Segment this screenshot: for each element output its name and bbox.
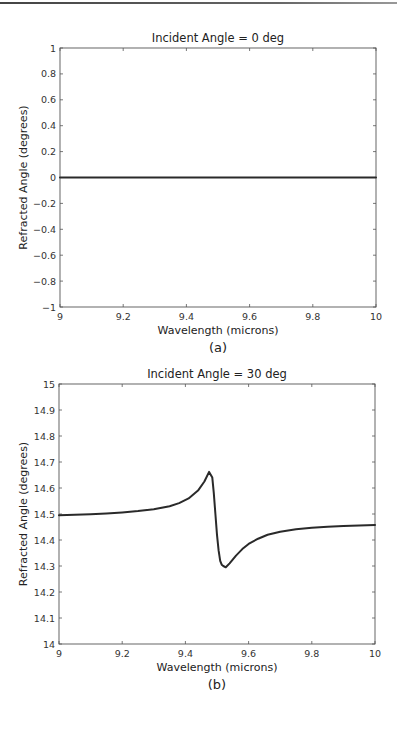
y-tick-label: 14.9 <box>34 405 55 416</box>
y-axis-label: Refracted Angle (degrees) <box>17 442 30 586</box>
x-tick-label: 10 <box>369 648 381 659</box>
figure-canvas: Incident Angle = 0 deg99.29.49.69.810−1−… <box>0 0 397 735</box>
x-tick-label: 9.6 <box>242 311 257 322</box>
y-tick-label: 14.7 <box>34 457 55 468</box>
chart-panel-b: Incident Angle = 30 deg99.29.49.69.81014… <box>17 367 381 692</box>
x-tick-label: 9.4 <box>179 311 194 322</box>
x-tick-label: 9.6 <box>241 648 256 659</box>
chart-title: Incident Angle = 30 deg <box>147 367 287 381</box>
y-tick-label: −0.8 <box>33 276 56 287</box>
y-tick-label: 0.8 <box>41 68 56 79</box>
y-tick-label: −0.2 <box>33 198 56 209</box>
y-tick-label: 0 <box>50 172 56 183</box>
y-tick-label: 14.4 <box>34 535 55 546</box>
x-tick-label: 9.8 <box>304 648 319 659</box>
data-series-line <box>59 472 375 567</box>
panel-label: (b) <box>208 677 226 692</box>
chart-panel-a: Incident Angle = 0 deg99.29.49.69.810−1−… <box>17 31 382 355</box>
y-axis-label: Refracted Angle (degrees) <box>17 105 30 249</box>
x-tick-label: 9 <box>56 648 62 659</box>
x-tick-label: 9.2 <box>115 648 130 659</box>
y-tick-label: 0.4 <box>41 120 56 131</box>
y-tick-label: −0.6 <box>33 250 56 261</box>
chart-title: Incident Angle = 0 deg <box>152 31 284 45</box>
x-axis-label: Wavelength (microns) <box>158 324 279 337</box>
y-tick-label: 0.2 <box>41 146 56 157</box>
x-tick-label: 9.4 <box>178 648 193 659</box>
x-tick-label: 9.2 <box>116 311 131 322</box>
y-tick-label: 14.2 <box>34 587 55 598</box>
y-tick-label: 14.8 <box>34 431 55 442</box>
y-tick-label: −0.4 <box>33 224 56 235</box>
x-tick-label: 9.8 <box>305 311 320 322</box>
y-tick-label: 14 <box>43 639 55 650</box>
panel-label: (a) <box>209 340 227 355</box>
y-tick-label: 14.1 <box>34 613 55 624</box>
x-axis-label: Wavelength (microns) <box>157 661 278 674</box>
x-tick-label: 9 <box>57 311 63 322</box>
y-tick-label: 1 <box>50 43 56 54</box>
y-tick-label: 14.5 <box>34 509 55 520</box>
y-tick-label: 0.6 <box>41 94 56 105</box>
y-tick-label: 14.3 <box>34 561 55 572</box>
y-tick-label: 15 <box>43 379 55 390</box>
y-tick-label: −1 <box>42 302 56 313</box>
x-tick-label: 10 <box>370 311 382 322</box>
y-tick-label: 14.6 <box>34 483 55 494</box>
